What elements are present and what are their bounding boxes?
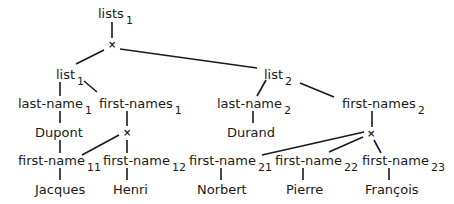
node-first-name-21: first-name21 (189, 153, 272, 169)
node-francois: François (365, 182, 419, 197)
node-first-name-11: first-name11 (18, 153, 101, 169)
node-subscript: 12 (172, 161, 186, 174)
node-label: first-names (99, 96, 173, 111)
node-subscript: 2 (284, 104, 291, 117)
node-durand: Durand (227, 125, 275, 140)
node-label: lists (98, 6, 124, 21)
node-subscript: 1 (126, 14, 133, 27)
node-label: first-name (275, 153, 342, 168)
node-first-name-23: first-name23 (362, 153, 445, 169)
node-first-name-22: first-name22 (275, 153, 358, 169)
tree-diagram: lists1 × list1 list2 last-name1 first-na… (0, 0, 454, 204)
node-norbert: Norbert (197, 182, 247, 197)
node-label: list (56, 67, 75, 82)
node-subscript: 1 (175, 104, 182, 117)
node-subscript: 1 (85, 104, 92, 117)
node-first-names-2: first-names2 (342, 96, 425, 112)
node-subscript: 22 (344, 161, 358, 174)
node-subscript: 1 (77, 75, 84, 88)
node-label: last-name (18, 96, 83, 111)
node-label: last-name (217, 96, 282, 111)
node-last-name-2: last-name2 (217, 96, 291, 112)
node-first-name-12: first-name12 (103, 153, 186, 169)
node-list-2: list2 (264, 67, 292, 83)
node-label: first-name (362, 153, 429, 168)
node-subscript: 23 (431, 161, 445, 174)
node-subscript: 21 (258, 161, 272, 174)
node-label: list (264, 67, 283, 82)
node-label: first-names (342, 96, 416, 111)
node-list-1: list1 (56, 67, 84, 83)
node-first-names-1: first-names1 (99, 96, 182, 112)
cross-product-icon: × (367, 129, 375, 139)
node-dupont: Dupont (35, 125, 83, 140)
node-last-name-1: last-name1 (18, 96, 92, 112)
cross-product-icon: × (108, 40, 116, 50)
node-jacques: Jacques (35, 182, 85, 197)
node-subscript: 11 (87, 161, 101, 174)
node-subscript: 2 (418, 104, 425, 117)
node-subscript: 2 (285, 75, 292, 88)
node-pierre: Pierre (286, 182, 323, 197)
node-label: first-name (18, 153, 85, 168)
node-lists-1: lists1 (98, 6, 133, 22)
node-label: first-name (189, 153, 256, 168)
node-henri: Henri (113, 182, 148, 197)
node-label: first-name (103, 153, 170, 168)
cross-product-icon: × (123, 128, 131, 138)
